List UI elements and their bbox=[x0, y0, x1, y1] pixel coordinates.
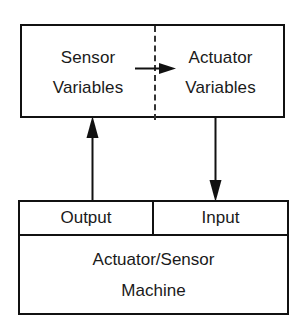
output-port: Output bbox=[20, 202, 154, 234]
sensor-variables-line-2: Variables bbox=[53, 73, 124, 103]
sensor-variables-line-1: Sensor bbox=[61, 43, 115, 73]
output-port-label: Output bbox=[60, 208, 111, 228]
machine-body: Actuator/Sensor Machine bbox=[20, 236, 287, 313]
machine-port-row: Output Input bbox=[20, 202, 287, 236]
machine-body-line-1: Actuator/Sensor bbox=[93, 244, 215, 275]
actuator-variables-line-1: Actuator bbox=[188, 43, 252, 73]
input-port-label: Input bbox=[202, 208, 240, 228]
diagram-canvas: Sensor Variables Actuator Variables Outp… bbox=[0, 0, 304, 335]
sensor-to-actuator-arrow-icon bbox=[135, 62, 177, 75]
input-port: Input bbox=[154, 202, 287, 234]
machine-box: Output Input Actuator/Sensor Machine bbox=[18, 200, 289, 315]
actuator-variables-line-2: Variables bbox=[185, 73, 256, 103]
actuator-to-input-arrow-icon bbox=[207, 116, 224, 202]
machine-body-line-2: Machine bbox=[121, 275, 185, 306]
output-to-sensor-arrow-icon bbox=[84, 116, 101, 202]
